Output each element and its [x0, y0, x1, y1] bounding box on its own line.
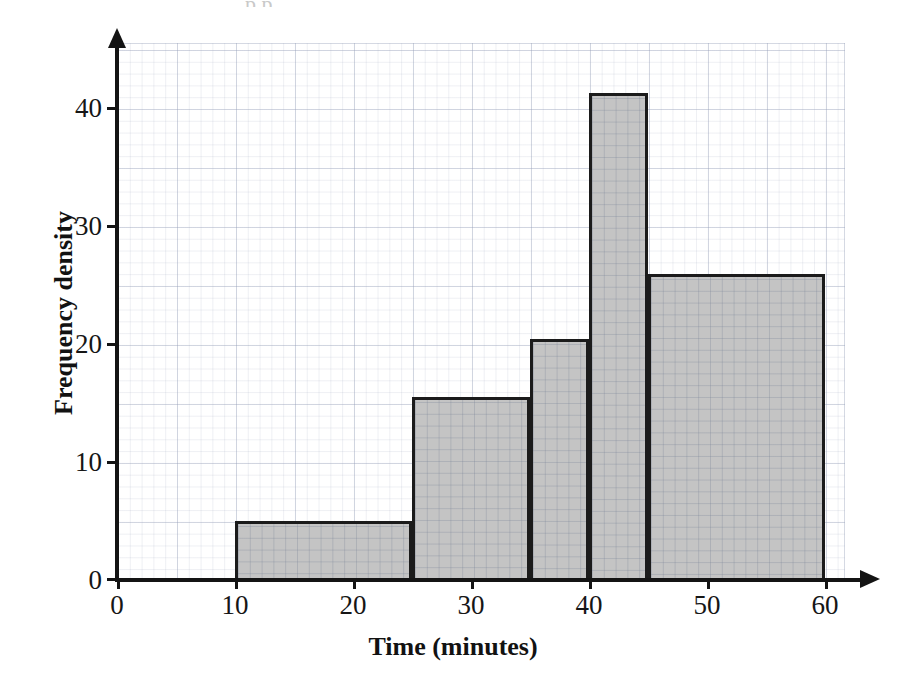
- histogram-bar-25-35: [412, 397, 530, 581]
- histogram-bar-35-40: [530, 339, 589, 581]
- x-axis-title: Time (minutes): [0, 632, 906, 662]
- y-tick-30: [107, 225, 118, 228]
- y-axis-title: Frequency density: [49, 103, 79, 523]
- x-tick-40: [589, 578, 592, 589]
- x-axis-arrow-icon: [860, 570, 880, 588]
- y-axis-line: [115, 44, 119, 581]
- bars-group: [0, 0, 906, 675]
- x-tick-60: [825, 578, 828, 589]
- y-tick-label-0: 0: [42, 565, 102, 595]
- x-tick-label-20: 20: [323, 590, 383, 620]
- y-tick-0: [107, 578, 118, 581]
- histogram-bar-10-25: [235, 521, 412, 581]
- y-axis-arrow-icon: [108, 28, 126, 48]
- x-axis-line: [115, 578, 867, 582]
- histogram-figure: p p 0 10 20 30 40 50 60 0 10 20 30 40: [0, 0, 906, 675]
- histogram-bar-45-60: [648, 274, 825, 581]
- x-tick-20: [353, 578, 356, 589]
- x-tick-label-50: 50: [677, 590, 737, 620]
- y-tick-10: [107, 461, 118, 464]
- x-tick-50: [707, 578, 710, 589]
- x-tick-label-40: 40: [559, 590, 619, 620]
- x-tick-label-10: 10: [205, 590, 265, 620]
- y-tick-20: [107, 343, 118, 346]
- x-tick-label-30: 30: [441, 590, 501, 620]
- x-tick-10: [235, 578, 238, 589]
- x-tick-30: [471, 578, 474, 589]
- x-tick-label-60: 60: [795, 590, 855, 620]
- histogram-bar-40-45: [589, 93, 648, 581]
- y-tick-40: [107, 107, 118, 110]
